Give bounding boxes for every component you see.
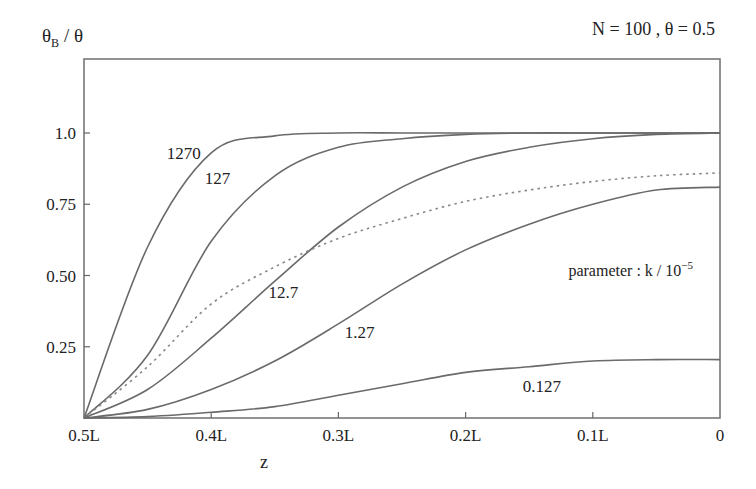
chart-title: N = 100 , θ = 0.5: [592, 19, 715, 39]
y-tick-label: 0.50: [46, 267, 76, 286]
x-tick-label: 0: [716, 426, 725, 445]
curve-label: 1.27: [345, 323, 375, 342]
y-tick-label: 1.0: [55, 124, 76, 143]
plot-frame: [84, 59, 720, 418]
axis-ticks: 0.5L0.4L0.3L0.2L0.1L01.00.750.500.25: [46, 124, 724, 445]
x-tick-label: 0.5L: [68, 426, 100, 445]
x-tick-label: 0.2L: [450, 426, 482, 445]
x-axis-label: z: [260, 452, 268, 472]
curve-dotted: [84, 173, 720, 418]
y-tick-label: 0.75: [46, 195, 76, 214]
curve-labels: 127012712.71.270.127: [167, 144, 562, 397]
curve-label: 12.7: [268, 283, 298, 302]
y-tick-label: 0.25: [46, 338, 76, 357]
y-axis-label: θB / θ: [42, 25, 83, 50]
x-tick-label: 0.1L: [577, 426, 609, 445]
x-tick-label: 0.3L: [323, 426, 355, 445]
curve-label: 127: [205, 169, 231, 188]
chart-canvas: θB / θ N = 100 , θ = 0.5 z 0.5L0.4L0.3L0…: [0, 0, 756, 489]
parameter-annotation: parameter : k / 10−5: [568, 259, 693, 280]
curve-label: 0.127: [523, 377, 562, 396]
curve-0_127: [84, 359, 720, 418]
curve-label: 1270: [167, 144, 201, 163]
x-tick-label: 0.4L: [195, 426, 227, 445]
